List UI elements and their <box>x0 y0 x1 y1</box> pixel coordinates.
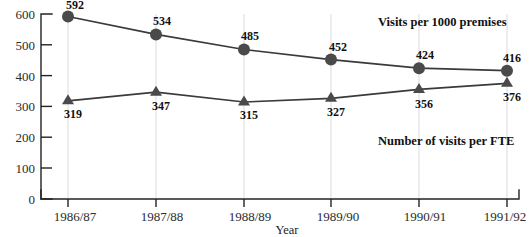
x-tick-labels: 1986/87 1987/88 1988/89 1989/90 1990/91 … <box>54 209 527 224</box>
data-point-label: 376 <box>503 90 521 104</box>
data-point-marker <box>62 11 74 23</box>
data-point-label: 424 <box>416 48 434 62</box>
y-tick-label: 0 <box>29 192 36 207</box>
data-point-marker <box>325 92 337 102</box>
data-point-marker <box>62 94 74 104</box>
x-tick-label: 1990/91 <box>404 209 447 224</box>
x-axis-title: Year <box>275 223 299 237</box>
data-point-marker <box>238 44 250 56</box>
data-point-marker <box>413 62 425 74</box>
data-point-label: 534 <box>153 14 171 28</box>
gridlines <box>68 14 507 198</box>
x-axis <box>41 190 519 207</box>
data-point-label: 356 <box>415 97 433 111</box>
data-point-marker <box>413 83 425 93</box>
y-axis <box>41 14 52 199</box>
data-point-label: 347 <box>152 99 170 113</box>
data-point-marker <box>238 96 250 106</box>
series-number-of-visits-per-fte: 319 347 315 327 356 376 <box>62 77 521 122</box>
x-tick-label: 1991/92 <box>484 209 527 224</box>
line-chart: 600 500 400 300 200 100 0 1986/87 1987/8… <box>0 0 531 237</box>
x-tick-label: 1987/88 <box>141 209 184 224</box>
y-tick-label: 600 <box>16 7 36 22</box>
data-point-label: 485 <box>241 29 259 43</box>
data-point-marker <box>150 86 162 96</box>
series-annotation-visits-per-1000-premises: Visits per 1000 premises <box>378 15 507 29</box>
data-point-label: 327 <box>327 105 345 119</box>
data-point-label: 416 <box>503 51 521 65</box>
data-point-marker <box>501 65 513 77</box>
y-tick-label: 500 <box>16 38 36 53</box>
y-tick-label: 300 <box>16 99 36 114</box>
data-point-label: 452 <box>329 40 347 54</box>
y-tick-label: 100 <box>16 161 36 176</box>
y-tick-label: 400 <box>16 69 36 84</box>
y-tick-label: 200 <box>16 130 36 145</box>
data-point-marker <box>501 77 513 87</box>
data-point-label: 319 <box>64 107 82 121</box>
data-point-marker <box>325 54 337 66</box>
data-point-marker <box>150 28 162 40</box>
y-tick-labels: 600 500 400 300 200 100 0 <box>16 7 36 207</box>
chart-canvas: 600 500 400 300 200 100 0 1986/87 1987/8… <box>0 0 531 237</box>
data-point-label: 315 <box>240 108 258 122</box>
series-line <box>68 83 507 102</box>
series-annotation-number-of-visits-per-fte: Number of visits per FTE <box>378 134 514 148</box>
data-point-label: 592 <box>66 0 84 12</box>
x-tick-label: 1989/90 <box>317 209 360 224</box>
x-tick-label: 1988/89 <box>229 209 272 224</box>
series-visits-per-1000-premises: 592 534 485 452 424 416 <box>62 0 521 77</box>
x-tick-label: 1986/87 <box>54 209 97 224</box>
